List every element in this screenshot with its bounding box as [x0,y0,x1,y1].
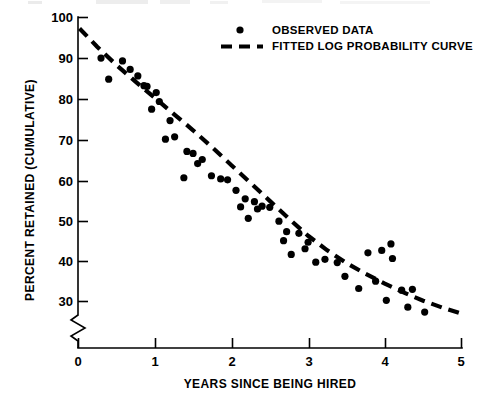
x-tick-label: 5 [457,354,464,369]
data-point [134,72,141,79]
data-point [251,198,258,205]
data-point [295,230,302,237]
data-point [421,308,428,315]
x-tick-label: 3 [305,354,312,369]
data-point [232,187,239,194]
y-axis [71,17,85,348]
legend-label-observed: OBSERVED DATA [272,24,374,36]
y-tick-label: 90 [59,51,73,66]
data-point [143,83,150,90]
data-point [409,286,416,293]
data-point [355,285,362,292]
data-point [389,255,396,262]
data-point [242,195,249,202]
x-tick-label: 0 [74,354,81,369]
data-point [254,205,261,212]
data-point [372,278,379,285]
data-point [312,259,319,266]
chart-legend: OBSERVED DATA FITTED LOG PROBABILITY CUR… [221,24,473,52]
data-point [404,304,411,311]
data-point [275,218,282,225]
data-point [127,66,134,73]
data-point [171,133,178,140]
data-point [180,174,187,181]
fitted-log-probability-curve [80,28,462,313]
y-axis-title: PERCENT RETAINED (CUMULATIVE) [23,79,37,301]
chart-canvas: 100 90 80 70 60 50 40 30 0 1 2 3 4 5 [0,0,493,400]
data-point [162,136,169,143]
data-point [245,215,252,222]
data-point [148,106,155,113]
x-tick-label: 4 [381,354,389,369]
data-point [199,156,206,163]
data-point [153,89,160,96]
data-point [266,204,273,211]
scan-artifact [28,0,430,4]
y-tick-label: 50 [59,214,73,229]
data-point [183,148,190,155]
data-point [280,237,287,244]
x-axis-ticks [79,338,462,348]
data-point [237,203,244,210]
y-axis-tick-labels: 100 90 80 70 60 50 40 30 [51,10,73,309]
y-axis-ticks [78,18,88,302]
x-tick-label: 2 [228,354,235,369]
y-tick-label: 100 [51,10,73,25]
data-point [305,239,312,246]
data-point [224,176,231,183]
chart-figure: 100 90 80 70 60 50 40 30 0 1 2 3 4 5 [0,0,493,400]
data-point [364,249,371,256]
x-axis-tick-labels: 0 1 2 3 4 5 [74,354,464,369]
data-point [398,287,405,294]
data-point [105,76,112,83]
x-axis-title: YEARS SINCE BEING HIRED [184,377,357,391]
data-point [334,259,341,266]
legend-label-fitted: FITTED LOG PROBABILITY CURVE [272,40,473,52]
data-point [383,297,390,304]
y-tick-label: 70 [59,133,73,148]
y-tick-label: 30 [59,294,73,309]
data-point [341,273,348,280]
y-tick-label: 40 [59,254,73,269]
data-point [301,245,308,252]
data-point [321,256,328,263]
data-point [387,240,394,247]
y-tick-label: 80 [59,92,73,107]
data-point [97,54,104,61]
data-point [208,172,215,179]
data-point [283,228,290,235]
data-point [288,251,295,258]
data-point [378,247,385,254]
data-point [217,175,224,182]
data-point [119,57,126,64]
data-point [189,150,196,157]
legend-dot-icon [236,26,243,33]
data-point [166,117,173,124]
x-tick-label: 1 [151,354,158,369]
data-point [156,98,163,105]
y-tick-label: 60 [59,174,73,189]
